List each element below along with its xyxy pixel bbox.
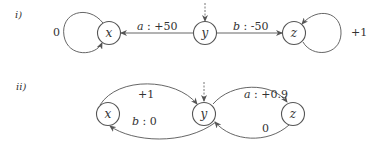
edge-y-to-x-label: a : +50 — [137, 20, 177, 33]
edge-y-to-x-reward: : 0 — [139, 115, 157, 128]
diagram-i: i) 0 a : +50 b : -50 +1 x y z — [15, 3, 367, 53]
mdp-diagrams: i) 0 a : +50 b : -50 +1 x y z ii) +1 b :… — [0, 0, 369, 149]
edge-y-to-z-reward: : +0.9 — [251, 88, 288, 101]
diagram-i-label: i) — [15, 9, 22, 20]
self-loop-z-label: +1 — [351, 26, 367, 39]
edge-y-to-x-action: b — [132, 115, 139, 128]
node-y-label: y — [201, 26, 209, 40]
edge-y-to-x-reward: : +50 — [144, 20, 178, 33]
edge-y-to-z-reward: : -50 — [240, 20, 268, 33]
diagram-ii: ii) +1 b : 0 a : +0.9 0 x y z — [16, 81, 305, 139]
edge-y-to-z-action: b — [233, 20, 240, 33]
node-z-label: z — [289, 107, 297, 121]
edge-y-to-x-label: b : 0 — [132, 115, 157, 128]
edge-y-to-z-label: a : +0.9 — [244, 88, 288, 101]
node-x-label: x — [106, 26, 113, 40]
node-x-label: x — [105, 107, 112, 121]
edge-y-to-z-label: b : -50 — [233, 20, 268, 33]
edge-z-to-y-label: 0 — [262, 122, 269, 135]
node-y-label: y — [200, 107, 208, 121]
self-loop-z-edge — [302, 13, 341, 52]
self-loop-x-label: 0 — [53, 26, 60, 39]
diagram-ii-label: ii) — [16, 81, 26, 92]
edge-z-to-y — [215, 122, 289, 138]
edge-x-to-y-label: +1 — [138, 88, 154, 101]
node-z-label: z — [290, 26, 298, 40]
